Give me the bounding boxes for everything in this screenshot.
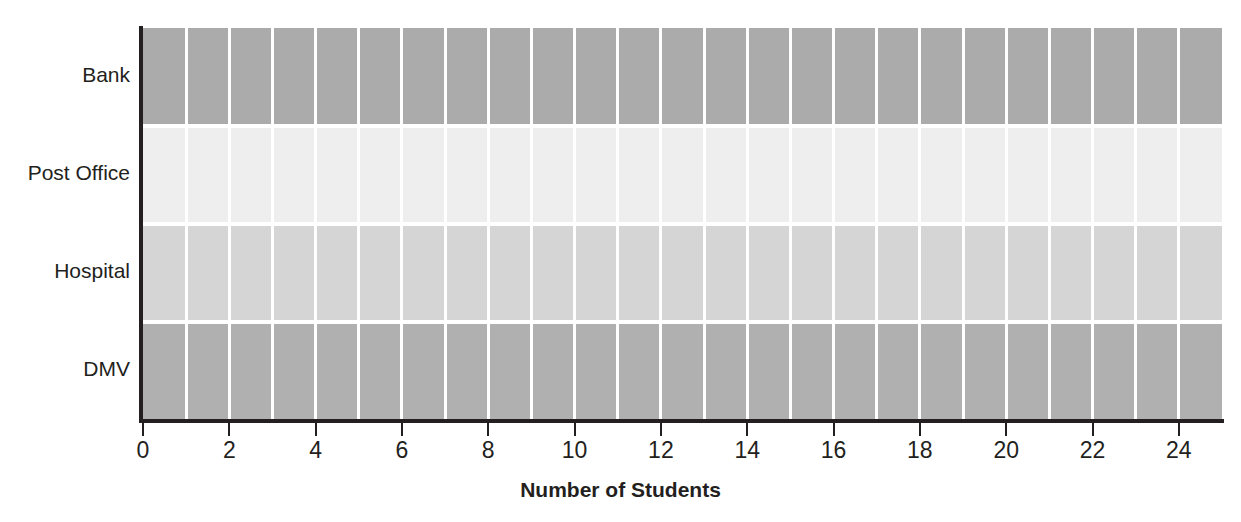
chart-title-clip: Bar graph of survey results of students … xyxy=(0,0,1241,9)
x-tick-label: 2 xyxy=(199,437,259,464)
y-axis-label-post-office: Post Office xyxy=(0,161,130,185)
x-axis-title: Number of Students xyxy=(0,478,1241,502)
y-axis-label-hospital: Hospital xyxy=(0,259,130,283)
x-tick-mark xyxy=(401,423,403,436)
x-tick-label: 12 xyxy=(631,437,691,464)
y-axis-label-dmv: DMV xyxy=(0,357,130,381)
x-tick-label: 6 xyxy=(372,437,432,464)
x-tick-mark xyxy=(1092,423,1094,436)
x-tick-mark xyxy=(746,423,748,436)
bar-post-office xyxy=(143,126,1222,224)
x-tick-mark xyxy=(574,423,576,436)
x-tick-mark xyxy=(228,423,230,436)
x-tick-mark xyxy=(1005,423,1007,436)
x-tick-mark xyxy=(315,423,317,436)
bar-bank xyxy=(143,28,1222,126)
bar-chart: Bar graph of survey results of students … xyxy=(0,0,1241,522)
x-tick-mark xyxy=(833,423,835,436)
x-axis-line xyxy=(139,419,1224,423)
y-axis-spine xyxy=(139,26,143,422)
x-tick-mark xyxy=(487,423,489,436)
x-tick-label: 14 xyxy=(717,437,777,464)
x-tick-label: 16 xyxy=(804,437,864,464)
x-tick-label: 10 xyxy=(545,437,605,464)
x-tick-label: 22 xyxy=(1063,437,1123,464)
bar-row xyxy=(143,224,1222,322)
plot-area xyxy=(143,28,1222,420)
bar-row xyxy=(143,322,1222,420)
bar-row xyxy=(143,126,1222,224)
x-tick-label: 8 xyxy=(458,437,518,464)
bar-dmv xyxy=(143,322,1222,420)
x-tick-label: 18 xyxy=(890,437,950,464)
x-tick-mark xyxy=(919,423,921,436)
x-tick-mark xyxy=(1178,423,1180,436)
x-tick-mark xyxy=(142,423,144,436)
x-tick-label: 24 xyxy=(1149,437,1209,464)
x-tick-label: 4 xyxy=(286,437,346,464)
y-axis-label-bank: Bank xyxy=(0,63,130,87)
bar-hospital xyxy=(143,224,1222,322)
x-tick-label: 20 xyxy=(976,437,1036,464)
x-tick-label: 0 xyxy=(113,437,173,464)
x-tick-mark xyxy=(660,423,662,436)
bar-row xyxy=(143,28,1222,126)
